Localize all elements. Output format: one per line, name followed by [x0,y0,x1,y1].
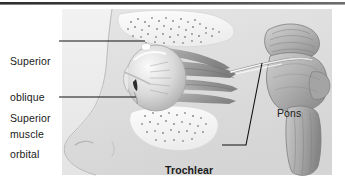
label-line: orbital [10,148,51,160]
label-trochlear-nerve: Trochlear nerve (IV) [165,139,214,179]
label-line: Superior [10,112,51,124]
top-rule [0,2,345,5]
label-superior-orbital-fissure: Superior orbital fissure [10,87,51,179]
label-line: Trochlear [165,164,214,176]
label-line: Superior [10,55,51,67]
label-line: Pons [277,107,301,119]
label-pons: Pons [277,82,301,143]
trochlear-nerve-figure: Superior oblique muscle Superior orbital… [0,0,345,179]
